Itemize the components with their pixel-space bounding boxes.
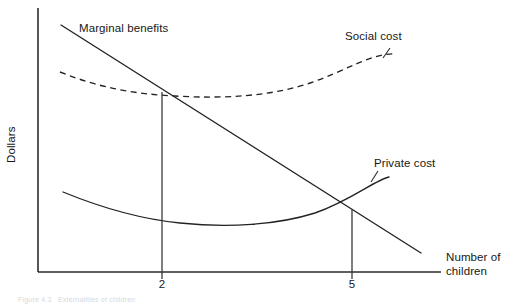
- series-label-marginal-benefits: Marginal benefits: [79, 22, 168, 36]
- x-axis-label: Number of children: [446, 251, 501, 278]
- chart-canvas: [0, 0, 516, 308]
- series-label-private-cost: Private cost: [374, 157, 435, 171]
- figure-caption: Figure 4.3 Externalities of children: [18, 296, 135, 303]
- y-axis-label: Dollars: [5, 115, 19, 175]
- series-social-cost: [60, 54, 396, 97]
- x-tick-label-2: 2: [152, 278, 172, 290]
- x-tick-label-5: 5: [342, 278, 362, 290]
- social-cost-leader-line: [383, 48, 390, 58]
- private-cost-leader-line: [371, 171, 378, 182]
- series-label-social-cost: Social cost: [345, 30, 402, 44]
- figure-container: Marginal benefits Social cost Private co…: [0, 0, 516, 308]
